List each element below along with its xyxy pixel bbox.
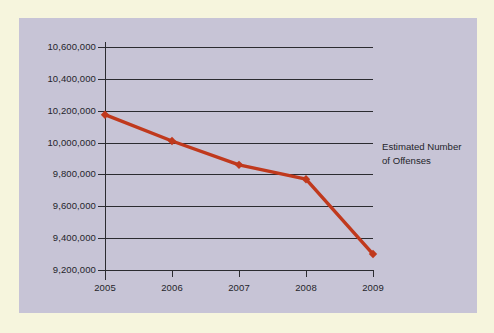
legend-label-line-2: of Offenses bbox=[382, 154, 482, 168]
data-point-marker bbox=[235, 161, 243, 169]
series-legend-label: Estimated Number of Offenses bbox=[382, 140, 482, 167]
chart-page: 9,200,0009,400,0009,600,0009,800,00010,0… bbox=[0, 0, 494, 333]
series-line bbox=[105, 115, 373, 254]
legend-label-line-1: Estimated Number bbox=[382, 140, 482, 154]
